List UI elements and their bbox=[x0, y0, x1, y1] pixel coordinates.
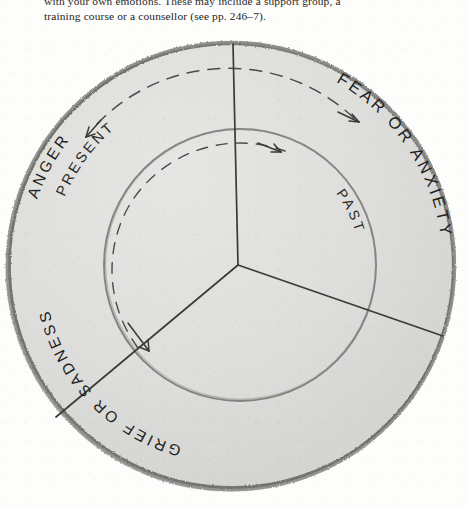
book-page: with your own emotions. These may includ… bbox=[0, 0, 467, 508]
emotions-circle-diagram: FEAR OR ANXIETY ANGER GRIEF OR SADNESS P… bbox=[0, 0, 467, 508]
circle-disc bbox=[9, 44, 453, 488]
